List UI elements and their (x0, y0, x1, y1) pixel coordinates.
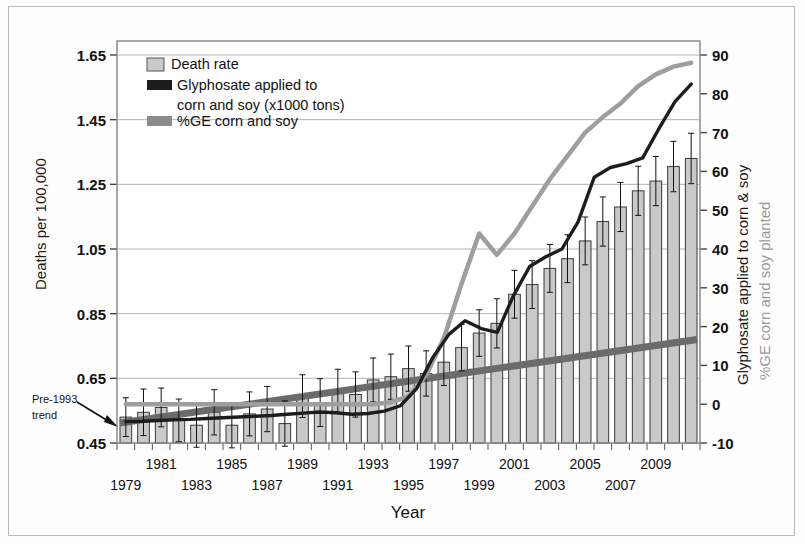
figure-container: 0.450.650.851.051.251.451.65 -1001020304… (0, 0, 805, 544)
bar (615, 207, 627, 443)
right-tick-label: 20 (712, 319, 729, 336)
legend-swatch-ge (147, 116, 172, 126)
x-tick-label-lower-row: 1995 (393, 477, 424, 493)
annotation-arrowhead (104, 415, 118, 427)
legend-label-glyphosate-line2: corn and soy (x1000 tons) (177, 97, 345, 113)
legend-label-glyphosate-line1: Glyphosate applied to (177, 77, 317, 93)
x-tick-label-upper-row: 2001 (499, 456, 530, 472)
left-tick-label: 1.25 (77, 176, 106, 193)
x-tick-label-lower-row: 1983 (181, 477, 212, 493)
left-tick-label: 0.65 (77, 370, 106, 387)
legend-swatch-glyphosate (147, 80, 172, 90)
x-tick-label-upper-row: 1997 (428, 456, 459, 472)
x-tick-label-lower-row: 2003 (534, 477, 565, 493)
x-axis-ticks (117, 443, 700, 450)
right-tick-label: 40 (712, 241, 729, 258)
x-tick-label-upper-row: 1989 (287, 456, 318, 472)
annotation-line-2: trend (32, 409, 57, 421)
bar (685, 158, 697, 443)
left-tick-label: 1.45 (77, 112, 106, 129)
right-tick-label: 60 (712, 163, 729, 180)
chart-canvas: 0.450.650.851.051.251.451.65 -1001020304… (0, 0, 805, 544)
bar (562, 259, 574, 443)
x-axis-tick-labels: 1981198519891993199720012005200919791983… (110, 456, 671, 493)
left-tick-label: 1.65 (77, 47, 106, 64)
right-tick-label: 30 (712, 280, 729, 297)
legend-label-death-rate: Death rate (171, 56, 239, 72)
bar (632, 191, 644, 443)
right-tick-label: 90 (712, 47, 729, 64)
right-tick-label: -10 (712, 435, 734, 452)
bar (650, 181, 662, 443)
legend-swatch-death-rate (147, 58, 164, 71)
bar (597, 222, 609, 443)
x-tick-label-upper-row: 2005 (570, 456, 601, 472)
x-tick-label-lower-row: 1991 (322, 477, 353, 493)
x-tick-label-lower-row: 1979 (110, 477, 141, 493)
left-tick-label: 0.45 (77, 435, 106, 452)
x-tick-label-lower-row: 1999 (464, 477, 495, 493)
x-tick-label-upper-row: 1985 (216, 456, 247, 472)
x-tick-label-upper-row: 1981 (146, 456, 177, 472)
x-axis-title: Year (391, 503, 426, 522)
right-tick-label: 80 (712, 86, 729, 103)
right-axis-ticks: -100102030405060708090 (700, 47, 734, 452)
x-tick-label-upper-row: 2009 (640, 456, 671, 472)
right-tick-label: 10 (712, 357, 729, 374)
left-tick-label: 0.85 (77, 306, 106, 323)
right-axis-title-primary: Glyphosate applied to corn & soy (734, 164, 751, 385)
x-tick-label-lower-row: 2007 (605, 477, 636, 493)
pre-1993-trend-annotation: Pre-1993 trend (32, 393, 118, 427)
right-tick-label: 70 (712, 125, 729, 142)
x-tick-label-upper-row: 1993 (358, 456, 389, 472)
right-tick-label: 50 (712, 202, 729, 219)
left-axis-title: Deaths per 100,000 (32, 158, 49, 290)
legend-label-ge: %GE corn and soy (177, 113, 299, 129)
bar (544, 268, 556, 443)
bar (668, 167, 680, 443)
left-axis-ticks: 0.450.650.851.051.251.451.65 (77, 47, 117, 452)
right-axis-title-secondary: %GE corn and soy planted (756, 202, 773, 380)
annotation-line-1: Pre-1993 (32, 393, 77, 405)
right-tick-label: 0 (712, 396, 720, 413)
x-tick-label-lower-row: 1987 (252, 477, 283, 493)
bar (579, 241, 591, 443)
left-tick-label: 1.05 (77, 241, 106, 258)
